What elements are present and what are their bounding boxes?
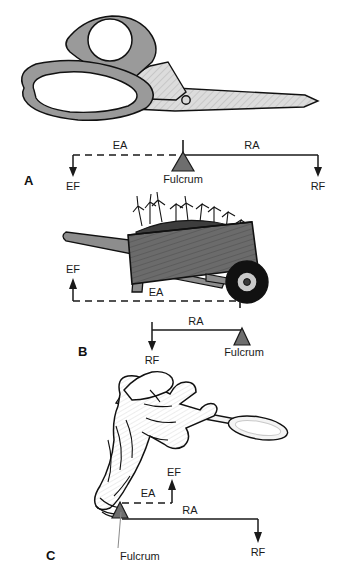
panel-b-effort-arm-label: EA: [149, 286, 164, 298]
panel-a-fulcrum-label: Fulcrum: [163, 173, 203, 185]
panel-a-effort-arm-label: EA: [113, 139, 128, 151]
panel-a-letter: A: [24, 173, 34, 188]
panel-b-resistance-force-label: RF: [145, 354, 160, 366]
panel-c-resistance-arm-label: RA: [182, 504, 198, 516]
scissors-upper-finger-hole: [88, 19, 132, 61]
wheelbarrow-axle-bolt: [244, 279, 251, 286]
lever-classes-figure: EA RA Fulcrum EF RF A: [0, 0, 348, 570]
panel-c-letter: C: [46, 548, 56, 563]
panel-a-resistance-arm-label: RA: [244, 139, 260, 151]
panel-a-effort-force-label: EF: [66, 180, 80, 192]
panel-a-resistance-force-label: RF: [311, 180, 326, 192]
panel-b-effort-force-label: EF: [66, 263, 80, 275]
panel-c-fulcrum-label: Fulcrum: [120, 550, 160, 562]
panel-c-resistance-force-label: RF: [251, 546, 266, 558]
scissors-pivot-screw: [182, 96, 190, 104]
panel-c-effort-arm-label: EA: [141, 487, 156, 499]
panel-b-resistance-arm-label: RA: [188, 315, 204, 327]
panel-c-effort-force-label: EF: [167, 466, 181, 478]
panel-b-fulcrum-label: Fulcrum: [224, 346, 264, 358]
panel-b-letter: B: [78, 344, 87, 359]
